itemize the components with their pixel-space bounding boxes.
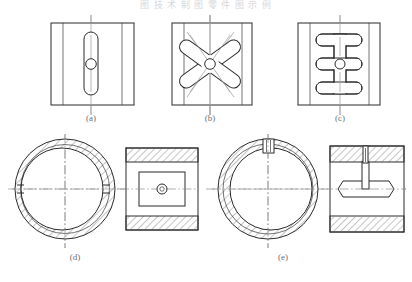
- vertical-pin: [362, 162, 369, 189]
- figure-a-drawing: [50, 15, 156, 115]
- hatched-bottom-band: [127, 216, 197, 229]
- hatched-top-band: [127, 149, 197, 162]
- figure-a: (a): [50, 15, 156, 115]
- figure-c: (c): [294, 15, 398, 115]
- figure-a-caption: (a): [71, 113, 111, 123]
- figure-c-drawing: [294, 15, 398, 115]
- keyway-slot: [263, 139, 274, 153]
- center-bore-circle: [335, 59, 345, 69]
- figure-e-caption: (e): [263, 252, 303, 262]
- center-bore-circle: [157, 184, 167, 194]
- center-bore-circle: [86, 59, 97, 70]
- figure-e-drawing: [206, 132, 406, 254]
- center-bore-circle: [205, 59, 216, 70]
- figure-d-caption: (d): [55, 252, 95, 262]
- figure-d: (d): [8, 132, 198, 254]
- drawing-sheet: 图 技 术 制 图 零 件 图 示 例 (a): [0, 0, 412, 282]
- figure-b-drawing: [168, 15, 268, 115]
- lower-slot-blend: [317, 83, 361, 93]
- hatched-bottom-band: [331, 217, 403, 231]
- figure-e: (e): [206, 132, 406, 254]
- sheet-header-text: 图 技 术 制 图 零 件 图 示 例: [0, 0, 412, 11]
- figure-b-caption: (b): [190, 113, 230, 123]
- figure-d-drawing: [8, 132, 198, 254]
- upper-slot-blend: [317, 35, 361, 45]
- figure-b: (b): [168, 15, 268, 115]
- figure-c-caption: (c): [320, 113, 360, 123]
